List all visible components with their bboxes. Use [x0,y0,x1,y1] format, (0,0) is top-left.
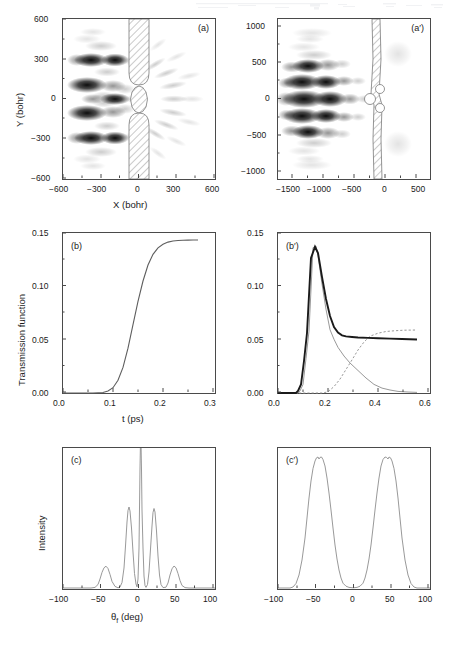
panel-a-prime-ytick-1: 500 [252,57,266,67]
panel-a-yaxis-title: Y (bohr) [14,93,25,127]
panel-b-yaxis-title: Transmission function [16,294,27,386]
panel-a-prime-ytick-3: −500 [247,130,266,140]
panel-a-prime-ytick-2: 0 [265,93,270,103]
panel-c-xtick-2: 0 [135,594,140,604]
panel-c-prime-xtick-3: 50 [385,594,394,604]
panel-a-xtick-4: 600 [205,184,219,194]
panel-c-prime-xtick-4: 100 [418,594,432,604]
scan-artifact [0,2,451,11]
panel-b-xtick-2: 0.2 [154,398,166,408]
panel-c-prime-ticks [277,447,433,592]
panel-b-prime-ytick-2: 0.10 [247,281,264,291]
panel-c-xtick-0: −100 [49,594,68,604]
panel-c-xaxis-title: θf (deg) [111,611,143,624]
panel-c-prime-xtick-0: −100 [264,594,283,604]
panel-a-prime-xtick-2: −500 [342,184,361,194]
panel-a-ytick-4: −600 [31,173,50,183]
panel-b-prime-ytick-0: 0.00 [247,388,264,398]
panel-c-xtick-4: 100 [203,594,217,604]
panel-b-ytick-0: 0.00 [32,388,49,398]
panel-c-yaxis-title: Intensity [36,516,47,551]
panel-b-ytick-3: 0.15 [32,228,49,238]
panel-a-prime-ticks [277,18,433,182]
panel-b-ytick-2: 0.10 [32,281,49,291]
panel-a-xtick-0: −600 [49,184,68,194]
panel-a-xtick-3: 300 [166,184,180,194]
panel-b-xtick-1: 0.1 [104,398,116,408]
panel-a-ytick-0: 600 [34,14,48,24]
panel-a-prime-xtick-4: 500 [411,184,425,194]
panel-a-xtick-1: −300 [87,184,106,194]
panel-a-ticks [62,18,218,182]
panel-b-xtick-0: 0.0 [53,398,65,408]
panel-a-prime-ytick-0: 1000 [246,21,265,31]
panel-b-prime-ytick-1: 0.05 [247,335,264,345]
panel-a-ytick-3: −300 [31,133,50,143]
panel-a-prime-ytick-4: −1000 [241,166,265,176]
panel-b-prime-ticks [277,232,433,396]
panel-a-ytick-1: 300 [34,54,48,64]
panel-a-ytick-2: 0 [51,93,56,103]
figure-canvas: (a) 600 300 0 −300 −600 −600 −300 0 300 … [0,0,451,652]
panel-c-ticks [62,447,218,592]
panel-c-prime-xtick-1: −50 [306,594,320,604]
panel-a-xaxis-title: X (bohr) [113,199,147,210]
panel-b-prime-xtick-2: 0.4 [369,398,381,408]
deg-unit: (deg) [118,611,143,622]
panel-b-prime-ytick-3: 0.15 [247,228,264,238]
panel-c-prime-xtick-2: 0 [350,594,355,604]
panel-c-xtick-1: −50 [91,594,105,604]
panel-c-xtick-3: 50 [170,594,179,604]
panel-b-prime-xtick-1: 0.2 [319,398,331,408]
panel-a-prime-xtick-0: −1500 [276,184,300,194]
panel-b-prime-xtick-0: 0.0 [268,398,280,408]
panel-b-xaxis-title: t (ps) [122,413,144,424]
panel-b-xtick-3: 0.3 [204,398,216,408]
panel-a-prime-xtick-1: −1000 [307,184,331,194]
panel-b-ytick-1: 0.05 [32,335,49,345]
panel-a-xtick-2: 0 [135,184,140,194]
panel-a-prime-xtick-3: 0 [382,184,387,194]
panel-b-ticks [62,232,218,396]
panel-b-prime-xtick-3: 0.6 [419,398,431,408]
